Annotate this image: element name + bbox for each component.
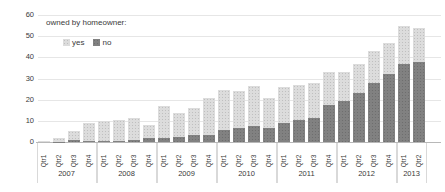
bar-segment-no: [248, 126, 260, 142]
year-group-2008: 2008: [97, 143, 157, 183]
bar-14: [248, 86, 260, 142]
bar-5: [113, 120, 125, 142]
bar-segment-yes: [368, 51, 380, 83]
bar-segment-yes: [398, 26, 410, 64]
y-tick-label-0: 0: [4, 138, 34, 146]
year-group-2012: 2012: [337, 143, 397, 183]
bar-20: [338, 72, 350, 142]
bar-1: [53, 138, 65, 142]
gridline-60: [38, 15, 441, 16]
y-tick-label-20: 20: [4, 96, 34, 104]
bar-10: [188, 108, 200, 142]
bar-segment-no: [128, 140, 140, 142]
bar-segment-yes: [218, 90, 230, 130]
stacked-bar-chart: owned by homeowner: yes no 0102030405060…: [0, 0, 445, 192]
bar-segment-no: [98, 141, 110, 142]
legend: owned by homeowner: yes no: [46, 18, 127, 27]
bar-16: [278, 87, 290, 142]
bar-segment-yes: [203, 98, 215, 135]
bar-9: [173, 113, 185, 142]
x-year-label: 2007: [38, 169, 96, 178]
bar-segment-no: [143, 138, 155, 142]
bar-segment-no: [188, 135, 200, 142]
bar-15: [263, 98, 275, 142]
bar-segment-yes: [98, 121, 110, 141]
gridline-50: [38, 36, 441, 37]
legend-item-yes-label: yes: [72, 38, 84, 47]
bar-segment-yes: [38, 141, 50, 142]
y-tick-label-30: 30: [4, 75, 34, 83]
legend-items: yes no: [63, 38, 111, 47]
year-group-2010: 2010: [217, 143, 277, 183]
legend-swatch-yes-icon: [63, 39, 70, 46]
bar-segment-no: [368, 83, 380, 142]
bar-segment-no: [113, 141, 125, 142]
bar-segment-no: [158, 138, 170, 142]
bar-segment-yes: [413, 28, 425, 62]
legend-item-no-label: no: [102, 38, 111, 47]
bar-segment-yes: [308, 83, 320, 118]
year-group-2011: 2011: [277, 143, 337, 183]
bar-segment-yes: [233, 91, 245, 128]
bar-segment-no: [263, 128, 275, 142]
bar-segment-yes: [263, 98, 275, 129]
bar-6: [128, 118, 140, 142]
bar-segment-no: [68, 140, 80, 142]
x-year-label: 2010: [218, 169, 276, 178]
legend-title: owned by homeowner:: [46, 18, 127, 27]
bar-segment-no: [233, 128, 245, 142]
bar-segment-yes: [83, 123, 95, 141]
bar-segment-yes: [188, 108, 200, 134]
bar-segment-no: [323, 105, 335, 142]
year-group-2009: 2009: [157, 143, 217, 183]
bar-8: [158, 106, 170, 142]
x-year-label: 2013: [398, 169, 426, 178]
bar-13: [233, 91, 245, 142]
bar-segment-no: [278, 123, 290, 142]
bar-25: [413, 28, 425, 142]
bar-segment-no: [293, 120, 305, 142]
bar-segment-yes: [383, 43, 395, 75]
bar-2: [68, 131, 80, 142]
bar-segment-no: [218, 130, 230, 142]
y-tick-label-60: 60: [4, 11, 34, 19]
legend-item-yes: yes: [63, 38, 84, 47]
bar-segment-yes: [248, 86, 260, 126]
gridline-40: [38, 57, 441, 58]
bar-segment-yes: [113, 120, 125, 141]
bar-4: [98, 121, 110, 142]
legend-item-no: no: [93, 38, 111, 47]
bar-17: [293, 85, 305, 142]
bar-segment-no: [383, 74, 395, 142]
bar-3: [83, 123, 95, 142]
y-tick-label-40: 40: [4, 53, 34, 61]
bar-segment-no: [173, 137, 185, 142]
bar-21: [353, 64, 365, 142]
bar-segment-yes: [128, 118, 140, 140]
bar-segment-no: [203, 135, 215, 142]
x-year-label: 2012: [338, 169, 396, 178]
bar-segment-yes: [353, 64, 365, 94]
bar-12: [218, 90, 230, 142]
bar-23: [383, 43, 395, 142]
y-tick-label-10: 10: [4, 117, 34, 125]
bar-24: [398, 26, 410, 142]
year-group-2013: 2013: [397, 143, 427, 183]
bar-segment-yes: [278, 87, 290, 123]
bar-segment-yes: [143, 125, 155, 138]
x-year-label: 2011: [278, 169, 336, 178]
legend-swatch-no-icon: [93, 39, 100, 46]
x-year-label: 2009: [158, 169, 216, 178]
bar-19: [323, 72, 335, 142]
bar-22: [368, 51, 380, 142]
bar-segment-no: [413, 62, 425, 142]
y-tick-label-50: 50: [4, 32, 34, 40]
bar-segment-no: [83, 141, 95, 142]
bar-segment-yes: [338, 72, 350, 101]
bar-segment-no: [353, 93, 365, 142]
bar-segment-yes: [68, 131, 80, 139]
bar-segment-no: [338, 101, 350, 142]
bar-segment-yes: [293, 85, 305, 120]
bar-segment-yes: [323, 72, 335, 105]
bar-7: [143, 125, 155, 142]
